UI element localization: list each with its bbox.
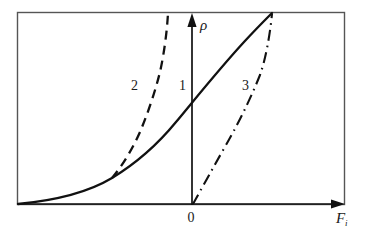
y-axis-label: ρ	[199, 17, 207, 33]
curve-label-2: 2	[131, 78, 138, 93]
chart-canvas: 1 2 3 ρ 0 F i	[0, 0, 365, 230]
curve-label-1: 1	[179, 78, 186, 93]
curve-label-3: 3	[242, 78, 249, 93]
figure-container: 1 2 3 ρ 0 F i	[0, 0, 365, 230]
origin-label: 0	[188, 210, 195, 225]
